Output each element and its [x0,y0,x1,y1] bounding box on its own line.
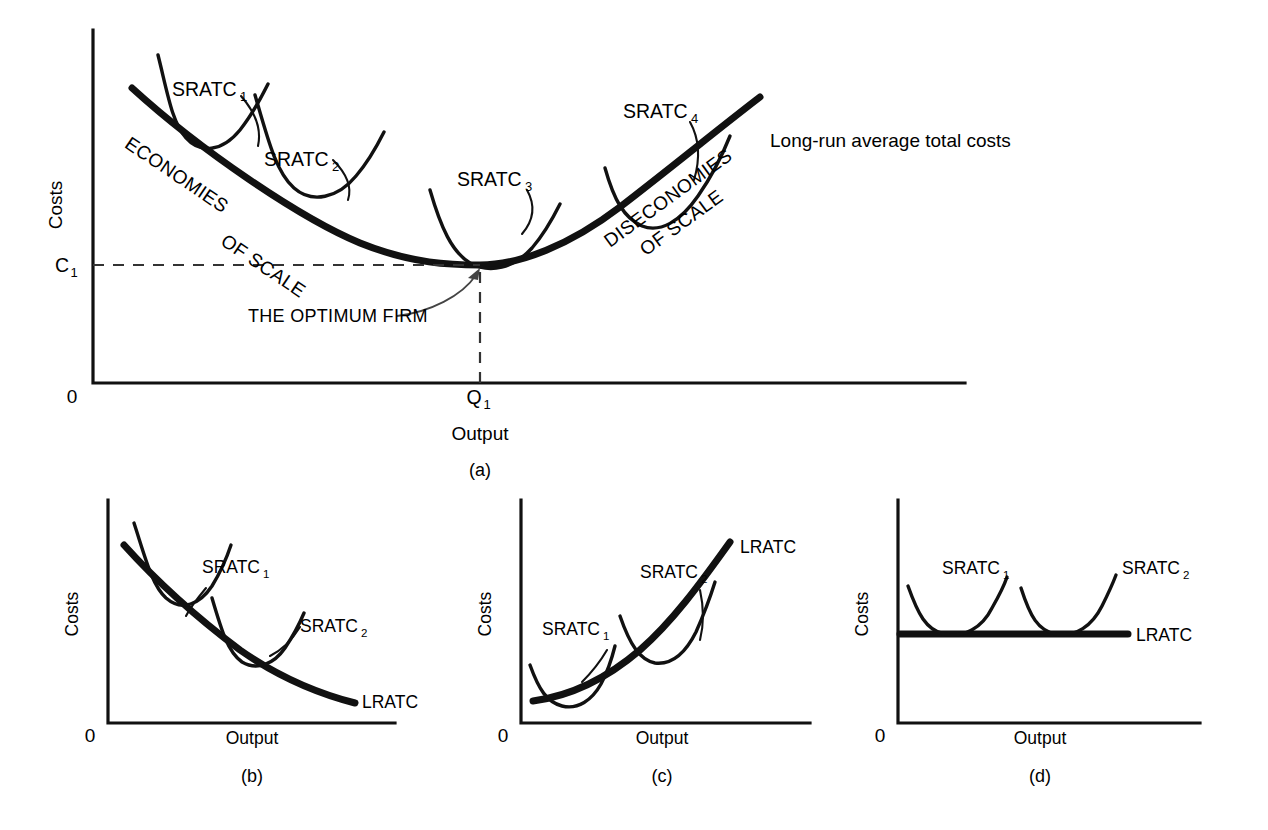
panel-d: Costs 0 Output (d) SRATC 1 SRATC 2 LRATC [852,500,1200,786]
panel-d-origin-label: 0 [875,725,886,746]
panel-a-y-axis-label: Costs [45,181,66,230]
panel-a-caption: (a) [469,460,491,480]
panel-b-lratc-label: LRATC [362,692,418,712]
panel-d-sratc1-text: SRATC [942,558,1000,578]
panel-a-output-tick-sub: 1 [483,397,490,412]
economics-diagram-svg: Costs 0 C 1 Q 1 Output (a) SRATC 1 SRATC… [0,0,1268,830]
panel-a-sratc2-sub: 2 [332,159,339,174]
panel-c-origin-label: 0 [498,725,509,746]
panel-a-cost-tick-text: C [55,254,69,276]
panel-b-sratc2-label: SRATC 2 [300,616,367,639]
panel-c-sratc1-label: SRATC 1 [542,619,609,642]
panel-a-sratc1-text: SRATC [172,78,237,100]
panel-c-lratc-label: LRATC [740,537,796,557]
panel-a-sratc4-label: SRATC 4 [623,100,698,126]
panel-a-sratc3-curve [430,190,560,268]
panel-d-caption: (d) [1029,766,1051,786]
panel-b-y-axis-label: Costs [62,591,82,636]
panel-c-sratc1-text: SRATC [542,619,600,639]
panel-a-sratc3-text: SRATC [457,168,522,190]
figure-root: Costs 0 C 1 Q 1 Output (a) SRATC 1 SRATC… [0,0,1268,830]
panel-a-cost-tick-label: C 1 [55,254,78,280]
panel-b-origin-label: 0 [85,725,96,746]
panel-b-sratc1-label: SRATC 1 [202,557,269,580]
panel-a-cost-tick-sub: 1 [70,265,77,280]
panel-b-sratc2-curve [212,598,304,666]
panel-a-sratc2-label: SRATC 2 [264,148,339,174]
panel-a-output-tick-label: Q 1 [466,386,490,412]
panel-a-origin-label: 0 [67,386,78,407]
panel-a-lratc-label: Long-run average total costs [770,130,1011,151]
panel-b-sratc1-sub: 1 [263,568,269,580]
panel-a-sratc3-label: SRATC 3 [457,168,532,194]
panel-c: Costs 0 Output (c) SRATC 1 SRATC 2 LRATC [475,500,810,786]
panel-b: Costs 0 Output (b) SRATC 1 SRATC 2 LRATC [62,500,418,786]
panel-c-y-axis-label: Costs [475,591,495,636]
panel-a-optimum-firm-label: THE OPTIMUM FIRM [248,306,428,326]
panel-d-sratc2-curve [1021,575,1116,634]
panel-d-lratc-label: LRATC [1136,625,1192,645]
panel-b-sratc2-text: SRATC [300,616,358,636]
panel-d-sratc1-label: SRATC 1 [942,558,1009,581]
panel-a-sratc1-curve [158,55,268,148]
panel-a-x-axis-label: Output [451,423,509,444]
panel-b-sratc1-text: SRATC [202,557,260,577]
panel-d-sratc1-sub: 1 [1003,569,1009,581]
panel-d-sratc2-sub: 2 [1183,569,1189,581]
panel-d-x-axis-label: Output [1014,728,1067,748]
panel-d-sratc1-curve [908,577,1007,635]
panel-b-sratc2-sub: 2 [361,627,367,639]
panel-c-sratc1-sub: 1 [603,630,609,642]
panel-b-caption: (b) [241,766,263,786]
panel-a-sratc4-sub: 4 [691,111,698,126]
panel-c-axes [521,500,810,723]
panel-b-x-axis-label: Output [226,728,279,748]
panel-c-sratc2-label: SRATC 2 [640,562,707,585]
panel-c-sratc2-text: SRATC [640,562,698,582]
panel-a-economies-line1: ECONOMIES [121,133,232,217]
panel-b-axes [108,500,395,723]
panel-a: Costs 0 C 1 Q 1 Output (a) SRATC 1 SRATC… [45,30,1011,480]
panel-a-optimum-arrow-head [468,268,480,280]
panel-a-sratc3-sub: 3 [525,179,532,194]
panel-a-sratc1-sub: 1 [240,89,247,104]
panel-c-caption: (c) [652,766,673,786]
panel-a-output-tick-text: Q [466,386,481,408]
panel-d-axes [898,500,1200,723]
panel-a-sratc1-label: SRATC 1 [172,78,247,104]
panel-d-y-axis-label: Costs [852,591,872,636]
panel-a-sratc2-curve [255,95,384,197]
panel-c-sratc2-sub: 2 [701,573,707,585]
panel-a-sratc3-leader [522,190,533,234]
panel-d-sratc2-label: SRATC 2 [1122,558,1189,581]
panel-a-sratc2-text: SRATC [264,148,329,170]
panel-c-x-axis-label: Output [636,728,689,748]
panel-a-sratc4-text: SRATC [623,100,688,122]
panel-d-sratc2-text: SRATC [1122,558,1180,578]
panel-a-sratc4-curve [605,136,730,228]
